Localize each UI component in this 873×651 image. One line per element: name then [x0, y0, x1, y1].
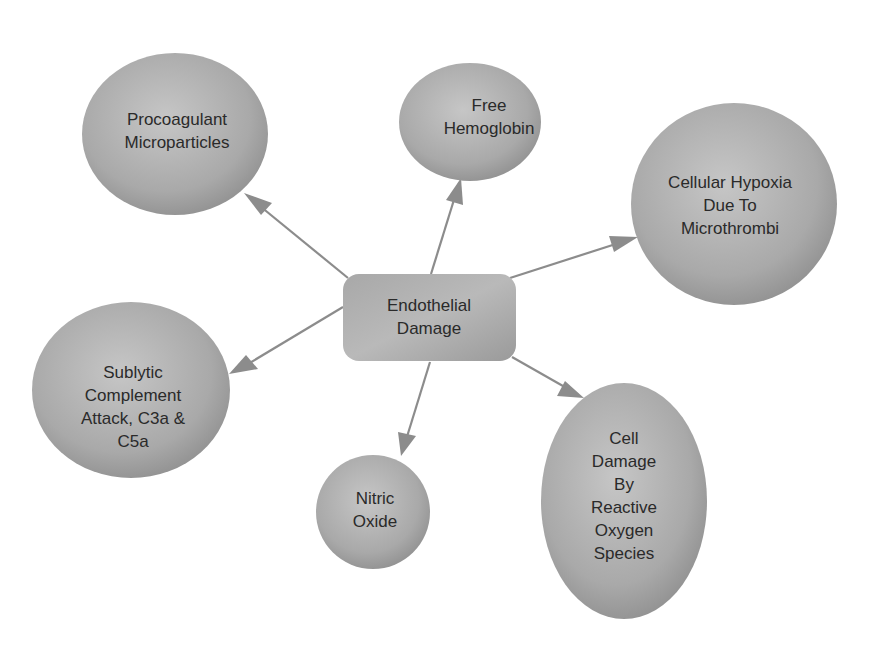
svg-text:Cellular Hypoxia: Cellular Hypoxia: [668, 173, 792, 192]
svg-text:Attack, C3a &: Attack, C3a &: [81, 409, 186, 428]
edge-to-free-hemoglobin: [431, 178, 463, 274]
svg-text:Damage: Damage: [397, 319, 461, 338]
edge-to-cell-damage: [512, 357, 584, 398]
svg-text:Procoagulant: Procoagulant: [127, 110, 227, 129]
svg-text:Complement: Complement: [85, 386, 182, 405]
svg-text:Damage: Damage: [592, 452, 656, 471]
node-endothelial-damage: Endothelial Damage: [343, 274, 516, 361]
svg-text:C5a: C5a: [117, 432, 149, 451]
node-cellular-hypoxia: Cellular Hypoxia Due To Microthrombi: [631, 103, 837, 305]
svg-text:Oxygen: Oxygen: [595, 521, 654, 540]
node-procoagulant-microparticles: Procoagulant Microparticles: [82, 53, 268, 215]
edge-to-nitric-oxide: [398, 362, 430, 456]
arrow-head-icon: [229, 355, 258, 374]
svg-text:Oxide: Oxide: [353, 512, 397, 531]
svg-text:Microthrombi: Microthrombi: [681, 219, 779, 238]
svg-text:By: By: [614, 475, 634, 494]
endothelial-damage-diagram: Procoagulant Microparticles Free Hemoglo…: [0, 0, 873, 651]
svg-text:Due To: Due To: [703, 196, 757, 215]
svg-text:Nitric: Nitric: [356, 489, 395, 508]
edge-to-sublytic-complement: [229, 307, 343, 374]
node-nitric-oxide: Nitric Oxide: [316, 455, 430, 569]
edge-to-procoagulant: [244, 193, 348, 278]
arrow-head-icon: [609, 236, 638, 252]
svg-text:Hemoglobin: Hemoglobin: [444, 119, 535, 138]
arrow-head-icon: [557, 381, 584, 398]
arrow-head-icon: [446, 178, 463, 205]
node-sublytic-complement: Sublytic Complement Attack, C3a & C5a: [32, 302, 230, 478]
svg-text:Endothelial: Endothelial: [387, 296, 471, 315]
svg-text:Free: Free: [472, 96, 507, 115]
svg-text:Microparticles: Microparticles: [125, 133, 230, 152]
svg-text:Cell: Cell: [609, 429, 638, 448]
node-free-hemoglobin: Free Hemoglobin: [399, 63, 541, 181]
edge-to-cellular-hypoxia: [510, 236, 638, 278]
svg-text:Sublytic: Sublytic: [103, 363, 163, 382]
arrow-head-icon: [398, 432, 416, 456]
node-cell-damage-ros: Cell Damage By Reactive Oxygen Species: [541, 383, 707, 619]
svg-text:Reactive: Reactive: [591, 498, 657, 517]
svg-text:Species: Species: [594, 544, 654, 563]
